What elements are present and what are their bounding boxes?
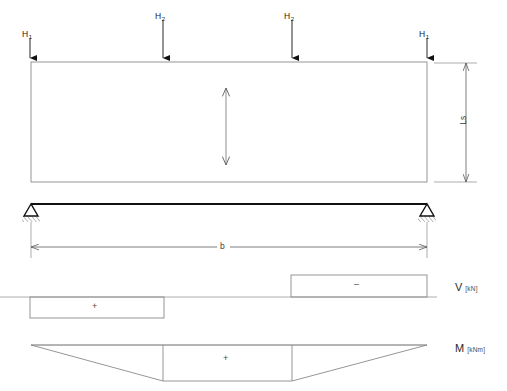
moment-positive-sign: + [223, 354, 228, 363]
beam-diagram-canvas: H1 H2 H2 H1 Ls b + – V[kN] + M[kNm] [0, 0, 507, 391]
support-right [418, 204, 436, 222]
shear-negative-sign: – [354, 280, 359, 289]
load-label-h2-mid-right: H2 [284, 12, 294, 21]
support-left [22, 204, 40, 222]
shear-axis-label: V[kN] [455, 282, 478, 293]
load-arrows-group [30, 20, 427, 58]
support-right-triangle [420, 204, 434, 216]
beam-section-rectangle [31, 62, 427, 182]
load-label-h1-right: H1 [419, 30, 429, 39]
figure-svg [0, 0, 507, 391]
support-left-triangle [24, 204, 38, 216]
moment-axis-unit: [kNm] [467, 346, 485, 353]
dimension-label-ls: Ls [459, 116, 468, 125]
shear-force-diagram [0, 275, 437, 318]
moment-axis-symbol: M [455, 342, 464, 354]
shear-axis-symbol: V [455, 281, 462, 293]
moment-trapezoid [31, 345, 427, 381]
dimension-b-group [31, 222, 427, 258]
dimension-ls-group [434, 63, 477, 182]
shear-positive-sign: + [92, 302, 97, 311]
bending-moment-diagram [31, 345, 427, 381]
moment-axis-label: M[kNm] [455, 343, 485, 354]
shear-axis-unit: [kN] [465, 285, 477, 292]
support-left-hatch [22, 216, 40, 222]
load-label-h1-left: H1 [22, 30, 32, 39]
load-label-h2-mid-left: H2 [155, 12, 165, 21]
support-right-hatch [418, 216, 436, 222]
dimension-label-b: b [220, 242, 225, 251]
